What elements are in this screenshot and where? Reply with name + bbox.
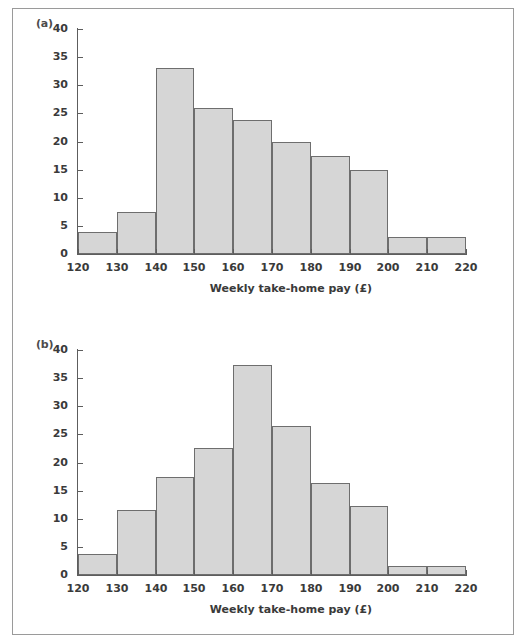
panel-a: (a) Weekly take-home pay (£) 05101520253… — [0, 0, 526, 321]
panel-b-x-axis-line — [77, 575, 467, 576]
y-axis-tick — [78, 113, 83, 114]
y-axis-tick-label: 35 — [28, 371, 68, 384]
histogram-bar — [117, 510, 156, 575]
x-axis-tick-label: 180 — [291, 582, 331, 595]
x-axis-tick — [194, 249, 195, 254]
x-axis-tick — [156, 249, 157, 254]
y-axis-tick-label: 10 — [28, 512, 68, 525]
x-axis-tick — [311, 249, 312, 254]
histogram-bar — [388, 566, 427, 575]
x-axis-tick — [427, 249, 428, 254]
histogram-bar — [233, 365, 272, 575]
y-axis-tick-label: 10 — [28, 191, 68, 204]
y-axis-tick — [78, 378, 83, 379]
y-axis-tick — [78, 491, 83, 492]
histogram-bar — [388, 237, 427, 254]
y-axis-tick — [78, 254, 83, 255]
x-axis-tick — [272, 249, 273, 254]
x-axis-tick — [388, 570, 389, 575]
histogram-bar — [311, 483, 350, 575]
y-axis-tick — [78, 434, 83, 435]
y-axis-tick-label: 30 — [28, 78, 68, 91]
histogram-bar — [427, 237, 466, 254]
panel-a-x-axis-line — [77, 254, 467, 255]
y-axis-tick-label: 15 — [28, 163, 68, 176]
y-axis-tick-label: 15 — [28, 484, 68, 497]
y-axis-tick — [78, 85, 83, 86]
x-axis-tick — [272, 570, 273, 575]
x-axis-tick — [427, 570, 428, 575]
x-axis-tick-label: 130 — [97, 261, 137, 274]
y-axis-tick-label: 35 — [28, 50, 68, 63]
x-axis-tick-label: 180 — [291, 261, 331, 274]
panel-b-plot-area — [78, 350, 466, 575]
x-axis-tick — [233, 249, 234, 254]
x-axis-tick — [311, 570, 312, 575]
histogram-bar — [194, 448, 233, 575]
panel-b: (b) Weekly take-home pay (£) 05101520253… — [0, 321, 526, 642]
y-axis-tick — [78, 170, 83, 171]
x-axis-tick-label: 160 — [213, 582, 253, 595]
histogram-bar — [311, 156, 350, 254]
y-axis-tick-label: 0 — [28, 568, 68, 581]
y-axis-tick-label: 20 — [28, 456, 68, 469]
histogram-bar — [156, 477, 195, 575]
y-axis-tick — [78, 519, 83, 520]
y-axis-tick — [78, 142, 83, 143]
y-axis-tick-label: 20 — [28, 135, 68, 148]
x-axis-tick-label: 120 — [58, 261, 98, 274]
histogram-bar — [233, 120, 272, 254]
x-axis-tick — [350, 570, 351, 575]
y-axis-tick — [78, 406, 83, 407]
y-axis-tick-label: 5 — [28, 540, 68, 553]
panel-a-plot-area — [78, 29, 466, 254]
y-axis-tick-label: 40 — [28, 343, 68, 356]
y-axis-tick-label: 0 — [28, 247, 68, 260]
histogram-bar — [194, 108, 233, 254]
histogram-bar — [156, 68, 195, 254]
histogram-bar — [350, 506, 389, 575]
y-axis-tick-label: 25 — [28, 106, 68, 119]
x-axis-tick-label: 220 — [446, 261, 486, 274]
panel-b-x-axis-title: Weekly take-home pay (£) — [0, 603, 526, 616]
x-axis-tick-label: 200 — [368, 582, 408, 595]
histogram-bar — [350, 170, 389, 254]
histogram-bar — [272, 426, 311, 575]
y-axis-tick — [78, 547, 83, 548]
histogram-bar — [427, 566, 466, 575]
y-axis-tick-label: 40 — [28, 22, 68, 35]
x-axis-tick — [350, 249, 351, 254]
y-axis-tick — [78, 463, 83, 464]
y-axis-tick — [78, 198, 83, 199]
x-axis-tick — [78, 249, 79, 254]
x-axis-tick-label: 210 — [407, 582, 447, 595]
x-axis-tick-label: 120 — [58, 582, 98, 595]
x-axis-tick — [194, 570, 195, 575]
x-axis-tick — [117, 249, 118, 254]
y-axis-tick — [78, 57, 83, 58]
x-axis-tick-label: 190 — [330, 261, 370, 274]
x-axis-tick — [117, 570, 118, 575]
histogram-bar — [78, 554, 117, 575]
y-axis-tick — [78, 226, 83, 227]
x-axis-tick-label: 220 — [446, 582, 486, 595]
x-axis-tick — [466, 249, 467, 254]
x-axis-tick-label: 210 — [407, 261, 447, 274]
x-axis-tick-label: 150 — [174, 261, 214, 274]
x-axis-tick-label: 200 — [368, 261, 408, 274]
x-axis-tick-label: 130 — [97, 582, 137, 595]
histogram-bar — [78, 232, 117, 255]
histogram-figure: (a) Weekly take-home pay (£) 05101520253… — [0, 0, 526, 643]
x-axis-tick — [78, 570, 79, 575]
y-axis-tick-label: 30 — [28, 399, 68, 412]
x-axis-tick-label: 170 — [252, 261, 292, 274]
x-axis-tick — [388, 249, 389, 254]
y-axis-tick — [78, 575, 83, 576]
x-axis-tick-label: 140 — [136, 582, 176, 595]
x-axis-tick-label: 190 — [330, 582, 370, 595]
x-axis-tick — [233, 570, 234, 575]
x-axis-tick-label: 140 — [136, 261, 176, 274]
x-axis-tick-label: 170 — [252, 582, 292, 595]
y-axis-tick-label: 5 — [28, 219, 68, 232]
y-axis-tick — [78, 29, 83, 30]
